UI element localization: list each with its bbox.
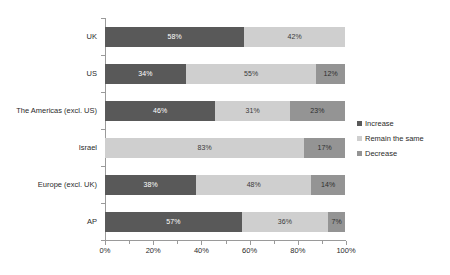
legend-swatch-decrease-icon — [357, 151, 362, 156]
x-axis-minor-tick — [129, 241, 130, 244]
x-axis-major-tick — [201, 241, 202, 245]
bar-segment-increase[interactable]: 38% — [105, 175, 196, 195]
bar-segment-increase[interactable]: 58% — [105, 27, 244, 47]
bar-segment-decrease[interactable]: 7% — [328, 212, 345, 232]
legend-swatch-remain-the-same-icon — [357, 136, 362, 141]
x-axis-major-tick — [298, 241, 299, 245]
legend-label-decrease: Decrease — [365, 149, 397, 158]
x-axis-ticks — [105, 241, 346, 245]
stacked-bar: 83% 17% — [105, 138, 345, 158]
x-axis-minor-tick — [274, 241, 275, 244]
bar-segment-remain-the-same[interactable]: 55% — [186, 64, 317, 84]
y-axis-label-europe: Europe (excl. UK) — [0, 166, 101, 203]
y-axis-label-ap: AP — [0, 203, 101, 240]
x-axis-tick-label: 80% — [290, 246, 305, 255]
bar-segment-remain-the-same[interactable]: 36% — [242, 212, 328, 232]
chart-legend: Increase Remain the same Decrease — [357, 116, 449, 161]
bar-segment-decrease[interactable]: 14% — [311, 175, 345, 195]
bar-row-israel: 83% 17% — [105, 129, 345, 166]
bar-segment-remain-the-same[interactable]: 48% — [196, 175, 311, 195]
x-axis-tick-label: 40% — [194, 246, 209, 255]
x-axis-tick-labels: 0%20%40%60%80%100% — [105, 246, 346, 260]
bar-segment-decrease[interactable]: 23% — [290, 101, 345, 121]
bar-row-uk: 58% 42% — [105, 18, 345, 55]
legend-label-increase: Increase — [365, 119, 394, 128]
bar-segment-increase[interactable]: 46% — [105, 101, 215, 121]
legend-swatch-increase-icon — [357, 121, 362, 126]
y-axis-label-israel: Israel — [0, 129, 101, 166]
stacked-bar: 58% 42% — [105, 27, 345, 47]
y-axis-label-us: US — [0, 55, 101, 92]
bar-row-us: 34% 55% 12% — [105, 55, 345, 92]
bar-segment-increase[interactable]: 57% — [105, 212, 242, 232]
x-axis-major-tick — [105, 241, 106, 245]
bar-row-the-americas: 46% 31% 23% — [105, 92, 345, 129]
legend-item-decrease[interactable]: Decrease — [357, 146, 449, 161]
x-axis-major-tick — [346, 241, 347, 245]
x-axis-major-tick — [153, 241, 154, 245]
x-axis-minor-tick — [226, 241, 227, 244]
bar-row-ap: 57% 36% 7% — [105, 203, 345, 240]
x-axis-tick-label: 60% — [242, 246, 257, 255]
bar-segment-decrease[interactable]: 17% — [304, 138, 345, 158]
legend-item-remain-the-same[interactable]: Remain the same — [357, 131, 449, 146]
stacked-bar: 34% 55% 12% — [105, 64, 345, 84]
y-axis-label-uk: UK — [0, 18, 101, 55]
bar-segment-remain-the-same[interactable]: 31% — [215, 101, 289, 121]
y-axis-label-the-americas: The Americas (excl. US) — [0, 92, 101, 129]
bar-segment-decrease[interactable]: 12% — [316, 64, 345, 84]
legend-label-remain-the-same: Remain the same — [365, 134, 424, 143]
bar-segment-remain-the-same[interactable]: 83% — [105, 138, 304, 158]
stacked-bar-chart: UK US The Americas (excl. US) Israel Eur… — [0, 0, 450, 275]
stacked-bar: 57% 36% 7% — [105, 212, 345, 232]
x-axis-minor-tick — [177, 241, 178, 244]
x-axis-minor-tick — [322, 241, 323, 244]
bar-row-europe: 38% 48% 14% — [105, 166, 345, 203]
x-axis-tick-label: 100% — [336, 246, 355, 255]
stacked-bar: 46% 31% 23% — [105, 101, 345, 121]
legend-item-increase[interactable]: Increase — [357, 116, 449, 131]
x-axis-tick-label: 0% — [100, 246, 111, 255]
bar-rows: 58% 42% 34% 55% 12% 46% 31% 23% — [105, 18, 345, 240]
x-axis-major-tick — [250, 241, 251, 245]
y-axis-category-labels: UK US The Americas (excl. US) Israel Eur… — [0, 18, 101, 240]
x-axis-tick-label: 20% — [146, 246, 161, 255]
bar-segment-increase[interactable]: 34% — [105, 64, 186, 84]
stacked-bar: 38% 48% 14% — [105, 175, 345, 195]
bar-segment-remain-the-same[interactable]: 42% — [244, 27, 345, 47]
plot-area: 58% 42% 34% 55% 12% 46% 31% 23% — [105, 18, 345, 240]
